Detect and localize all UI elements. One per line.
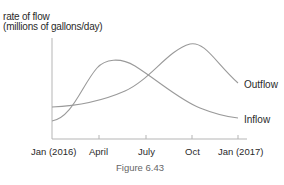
flow-chart: Outflow Inflow Jan (2016) April July Oct… — [0, 0, 284, 185]
x-axis-ticks — [99, 135, 238, 139]
x-tick-label-jan-2016: Jan (2016) — [31, 146, 76, 157]
x-tick-label-oct: Oct — [185, 146, 200, 157]
x-tick-label-jan-2017: Jan (2017) — [218, 146, 263, 157]
x-tick-label-april: April — [89, 146, 108, 157]
figure-caption-text: Figure 6.43 — [116, 162, 164, 173]
x-tick-label-july: July — [138, 146, 155, 157]
outflow-line — [52, 44, 238, 107]
figure-caption: Figure 6.43 — [0, 162, 284, 173]
legend-outflow: Outflow — [244, 79, 279, 90]
legend-inflow: Inflow — [244, 114, 271, 125]
inflow-line — [52, 60, 238, 121]
